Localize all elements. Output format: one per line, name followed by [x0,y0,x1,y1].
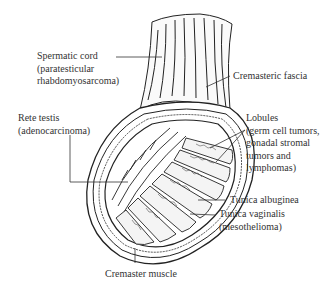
label-spermatic-cord: Spermatic cord (paratesticular rhabdomyo… [37,50,119,88]
testis-diagram: Spermatic cord (paratesticular rhabdomyo… [0,0,336,289]
label-lobules: Lobules (germ cell tumors, gonadal strom… [246,112,320,175]
spermatic-cord-drawing [140,14,232,110]
label-line: (adenocarcinoma) [18,125,90,138]
label-line: Rete testis [18,112,90,125]
label-tunica-albuginea: Tunica albuginea [230,194,299,207]
label-line: (germ cell tumors, [246,125,320,138]
label-line: Lobules [246,112,320,125]
label-rete-testis: Rete testis (adenocarcinoma) [18,112,90,137]
label-line: Cremasteric fascia [233,70,307,83]
label-line: Tunica vaginalis [219,208,285,221]
label-line: (mesothelioma) [219,221,285,234]
label-cremaster-muscle: Cremaster muscle [105,268,177,281]
label-line: gonadal stromal [246,137,320,150]
label-line: (paratesticular [37,63,119,76]
label-line: tumors and [246,150,320,163]
label-line: rhabdomyosarcoma) [37,75,119,88]
label-line: Tunica albuginea [230,194,299,207]
label-tunica-vaginalis: Tunica vaginalis (mesothelioma) [219,208,285,233]
label-cremasteric-fascia: Cremasteric fascia [233,70,307,83]
label-line: lymphomas) [246,162,320,175]
label-line: Cremaster muscle [105,268,177,281]
label-line: Spermatic cord [37,50,119,63]
